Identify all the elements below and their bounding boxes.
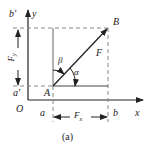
label-fy: Fy <box>7 53 18 61</box>
label-point-a: A <box>44 88 50 98</box>
fy-subscript: y <box>11 53 17 56</box>
label-b: b <box>113 108 118 118</box>
label-fx: Fx <box>74 111 82 122</box>
fy-symbol: F <box>6 56 16 62</box>
label-a: a <box>40 108 45 118</box>
label-origin: O <box>16 104 23 114</box>
force-projection-diagram: b' y B F β α Fy a' A O a Fx b x (a) <box>0 0 149 149</box>
label-force-f: F <box>96 48 102 58</box>
beta-angle-arc <box>53 70 64 74</box>
figure-caption: (a) <box>62 132 73 142</box>
label-x-axis: x <box>135 108 139 118</box>
label-y-axis: y <box>32 9 36 19</box>
label-beta: β <box>58 56 62 65</box>
label-a-prime: a' <box>13 88 20 98</box>
fx-subscript: x <box>80 116 83 122</box>
label-b-prime: b' <box>9 9 16 19</box>
label-point-b: B <box>113 17 119 27</box>
label-alpha: α <box>74 68 79 77</box>
